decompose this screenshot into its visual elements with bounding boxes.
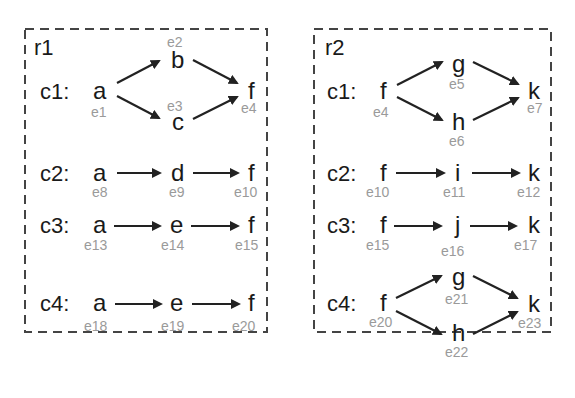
node-k: k — [528, 159, 541, 186]
node-id: e10 — [234, 184, 258, 200]
node-e: e — [170, 289, 183, 316]
node-f: f — [248, 159, 255, 186]
row-label: c3: — [40, 213, 69, 238]
node-id: e20 — [369, 314, 393, 330]
edge-arrow — [473, 98, 518, 120]
node-id: e23 — [518, 315, 542, 331]
edge-arrow — [473, 62, 518, 84]
node-f: f — [380, 289, 387, 316]
node-id: e20 — [232, 318, 256, 334]
edge-arrow — [473, 312, 517, 334]
edge-arrow — [117, 96, 159, 118]
node-a: a — [93, 289, 107, 316]
node-id: e10 — [366, 184, 390, 200]
node-f: f — [380, 77, 387, 104]
region-label: r1 — [34, 35, 54, 60]
row-r1-c2: c2: a e8 d e9 f e10 — [40, 159, 258, 200]
row-r2-c4: c4: f e20 g e21 h e22 k e23 — [327, 263, 542, 360]
node-id: e16 — [441, 243, 465, 259]
row-label: c4: — [40, 291, 69, 316]
region-r1: r1 c1: a e1 b e2 c e3 f e4 c2: a e8 d e9… — [25, 29, 267, 334]
row-label: c1: — [40, 79, 69, 104]
node-id: e15 — [366, 237, 390, 253]
node-a: a — [93, 211, 107, 238]
node-g: g — [452, 263, 465, 290]
row-r1-c3: c3: a e13 e e14 f e15 — [40, 211, 259, 253]
row-r2-c2: c2: f e10 i e11 k e12 — [327, 159, 541, 200]
node-id: e6 — [449, 133, 465, 149]
node-id: e11 — [443, 184, 466, 200]
node-b: b — [171, 46, 184, 73]
edge-arrow — [397, 97, 442, 120]
node-h: h — [452, 108, 465, 135]
node-e: e — [170, 211, 183, 238]
node-k: k — [528, 211, 541, 238]
region-label: r2 — [325, 35, 345, 60]
node-id: e3 — [167, 98, 183, 114]
edge-arrow — [117, 61, 159, 83]
node-id: e13 — [84, 237, 108, 253]
node-id: e15 — [235, 237, 259, 253]
edge-arrow — [396, 276, 441, 298]
row-r2-c3: c3: f e15 j e16 k e17 — [327, 211, 541, 259]
node-f: f — [380, 211, 387, 238]
node-id: e21 — [445, 291, 469, 307]
row-r1-c1: c1: a e1 b e2 c e3 f e4 — [40, 34, 257, 135]
node-j: j — [454, 211, 460, 238]
node-id: e18 — [84, 318, 108, 334]
node-id: e2 — [167, 34, 183, 50]
row-r2-c1: c1: f e4 g e5 h e6 k e7 — [327, 50, 543, 149]
node-f: f — [380, 159, 387, 186]
row-label: c4: — [327, 291, 356, 316]
edge-arrow — [396, 311, 441, 334]
row-label: c3: — [327, 213, 356, 238]
edge-arrow — [193, 60, 237, 83]
node-a: a — [93, 159, 107, 186]
region-r2: r2 c1: f e4 g e5 h e6 k e7 c2: f e10 i e… — [314, 29, 551, 360]
node-f: f — [248, 211, 255, 238]
node-id: e12 — [517, 184, 541, 200]
node-f: f — [248, 289, 255, 316]
node-id: e9 — [169, 184, 185, 200]
node-g: g — [452, 50, 465, 77]
node-i: i — [455, 159, 460, 186]
node-id: e4 — [241, 100, 257, 116]
node-id: e22 — [445, 344, 469, 360]
row-label: c1: — [327, 79, 356, 104]
row-label: c2: — [327, 161, 356, 186]
node-id: e7 — [527, 100, 543, 116]
node-id: e8 — [92, 184, 108, 200]
node-id: e1 — [91, 104, 107, 120]
diagram-canvas: r1 c1: a e1 b e2 c e3 f e4 c2: a e8 d e9… — [0, 0, 575, 398]
row-label: c2: — [40, 161, 69, 186]
node-k: k — [528, 290, 541, 317]
node-a: a — [93, 77, 107, 104]
node-id: e19 — [161, 318, 185, 334]
node-id: e5 — [449, 76, 465, 92]
edge-arrow — [473, 276, 517, 298]
edge-arrow — [397, 62, 442, 85]
node-d: d — [171, 159, 184, 186]
node-id: e14 — [161, 237, 185, 253]
node-id: e17 — [514, 237, 538, 253]
edge-arrow — [193, 97, 237, 119]
node-h: h — [452, 319, 465, 346]
row-r1-c4: c4: a e18 e e19 f e20 — [40, 289, 256, 334]
node-id: e4 — [373, 104, 389, 120]
